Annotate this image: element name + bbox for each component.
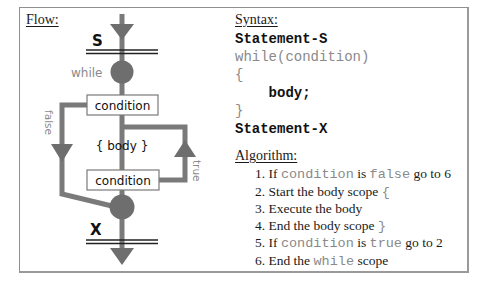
body-label: { body } (96, 139, 149, 153)
step-text: If (269, 235, 281, 250)
syntax-heading: Syntax: (235, 12, 278, 28)
condition-label-bottom: condition (95, 174, 150, 188)
algorithm-steps: 1. If condition is false go to 6 2. Star… (255, 166, 451, 271)
condition-label-top: condition (95, 99, 150, 113)
algorithm-step-3: 3. Execute the body (255, 201, 451, 218)
step-code: false (370, 167, 411, 182)
step-text: is (354, 235, 370, 250)
syntax-line-open-brace: { (235, 66, 243, 84)
false-label: false (43, 110, 55, 135)
step-code: condition (281, 167, 354, 182)
step-number: 1. (255, 166, 265, 181)
while-label: while (71, 66, 102, 80)
step-text: End the (269, 253, 314, 268)
algorithm-step-6: 6. End the while scope (255, 253, 451, 271)
true-label: true (191, 160, 203, 182)
step-number: 6. (255, 253, 265, 268)
step-code: } (378, 219, 386, 234)
start-label: S (92, 32, 103, 50)
step-code: while (314, 254, 355, 269)
step-code: condition (281, 236, 354, 251)
false-path (62, 105, 112, 206)
step-text: End the body scope (269, 218, 378, 233)
step-code: { (382, 185, 390, 200)
algorithm-step-5: 5. If condition is true go to 2 (255, 235, 451, 253)
step-text: If (269, 166, 281, 181)
true-arrow-up-icon (174, 140, 196, 157)
algorithm-step-2: 2. Start the body scope { (255, 184, 451, 202)
algorithm-step-1: 1. If condition is false go to 6 (255, 166, 451, 184)
merge-node (110, 195, 135, 220)
syntax-line-close-brace: } (235, 102, 243, 120)
step-number: 3. (255, 201, 265, 216)
step-text: scope (354, 253, 388, 268)
step-number: 5. (255, 235, 265, 250)
step-number: 2. (255, 184, 265, 199)
step-text: go to 2 (402, 235, 443, 250)
while-node (111, 61, 134, 84)
step-number: 4. (255, 218, 265, 233)
syntax-line-statement-s: Statement-S (235, 30, 327, 48)
flowchart: S X while condition { body } condition f… (0, 0, 230, 293)
step-text: is (354, 166, 370, 181)
syntax-line-while: while(condition) (235, 48, 369, 66)
algorithm-heading: Algorithm: (235, 148, 297, 164)
false-arrow-down-icon (51, 144, 73, 162)
entry-arrow-icon (110, 24, 134, 40)
step-text: Execute the body (269, 201, 363, 216)
step-text: Start the body scope (269, 184, 382, 199)
end-label: X (90, 221, 102, 239)
syntax-line-statement-x: Statement-X (235, 120, 327, 138)
syntax-line-body: body; (235, 84, 311, 102)
exit-arrow-icon (110, 248, 134, 265)
step-code: true (370, 236, 402, 251)
algorithm-step-4: 4. End the body scope } (255, 218, 451, 236)
step-text: go to 6 (410, 166, 451, 181)
